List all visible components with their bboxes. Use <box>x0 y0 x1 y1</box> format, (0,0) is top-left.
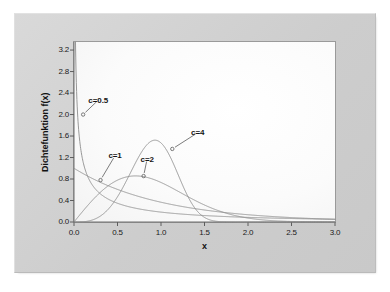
y-axis-title: Dichtefunktion f(x) <box>40 93 50 173</box>
curve-label-c-0-5: c=0.5 <box>88 96 108 105</box>
leader-line-c-1 <box>102 158 113 177</box>
y-tick-label: 0.0 <box>48 217 69 226</box>
y-tick-label: 2.0 <box>48 110 69 119</box>
x-tick-label: 0.0 <box>62 228 86 237</box>
chart-svg <box>0 0 390 292</box>
y-tick-label: 3.2 <box>48 45 69 54</box>
y-tick-label: 0.8 <box>48 174 69 183</box>
density-curve-c-1 <box>74 168 335 219</box>
density-curve-c-2 <box>74 176 335 222</box>
y-tick-label: 2.4 <box>48 88 69 97</box>
annotation-leader-lines-group <box>81 102 195 182</box>
x-tick-label: 0.5 <box>106 228 130 237</box>
curve-label-c-4: c=4 <box>191 128 204 137</box>
curve-label-c-1: c=1 <box>108 151 121 160</box>
density-curves-group <box>74 42 335 222</box>
y-tick-label: 1.6 <box>48 131 69 140</box>
y-tick-label: 1.2 <box>48 153 69 162</box>
curve-label-c-2: c=2 <box>141 155 154 164</box>
leader-anchor-marker <box>171 147 174 150</box>
y-tick-label: 2.8 <box>48 67 69 76</box>
y-tick-label: 0.4 <box>48 196 69 205</box>
density-curve-c-0-5 <box>75 42 335 219</box>
leader-anchor-marker <box>99 178 102 181</box>
x-tick-label: 1.5 <box>193 228 217 237</box>
x-axis-title: x <box>202 241 207 251</box>
leader-anchor-marker <box>81 113 84 116</box>
x-tick-label: 2.0 <box>236 228 260 237</box>
x-tick-label: 3.0 <box>323 228 347 237</box>
figure-container: 0.00.40.81.21.62.02.42.83.20.00.51.01.52… <box>0 0 390 292</box>
x-tick-label: 2.5 <box>280 228 304 237</box>
x-tick-label: 1.0 <box>149 228 173 237</box>
